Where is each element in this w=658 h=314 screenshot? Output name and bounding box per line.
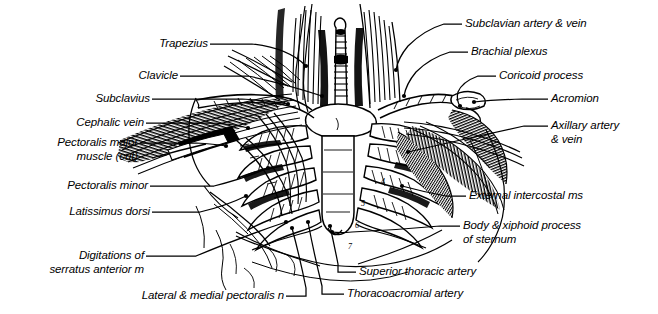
label-superior-thoracic-artery: Superior thoracic artery bbox=[359, 265, 599, 279]
label-digitations-line1: Digitations of bbox=[0, 249, 144, 263]
label-lateral-medial-pectoralis-n: Lateral & medial pectoralis n bbox=[0, 289, 284, 303]
anatomical-figure: 4 5 6 7 bbox=[0, 0, 658, 314]
label-subclavius: Subclavius bbox=[0, 92, 150, 106]
label-brachial-plexus: Brachial plexus bbox=[471, 45, 657, 59]
label-thoracoacromial-artery: Thoracoacromial artery bbox=[347, 287, 587, 301]
label-pectoralis-major-line2: muscle (cut) bbox=[0, 150, 138, 164]
label-trapezius: Trapezius bbox=[0, 37, 208, 51]
label-body-xiphoid-line2: of sternum bbox=[463, 233, 657, 247]
svg-text:6: 6 bbox=[355, 221, 359, 230]
label-pectoralis-minor: Pectoralis minor bbox=[0, 179, 148, 193]
label-pectoralis-major-line1: Pectoralis major bbox=[0, 136, 138, 150]
label-digitations-line2: serratus anterior m bbox=[0, 263, 144, 277]
label-body-xiphoid-line1: Body & xiphoid process bbox=[463, 219, 657, 233]
svg-text:4: 4 bbox=[381, 177, 385, 186]
label-external-intercostal-ms: External intercostal ms bbox=[469, 189, 657, 203]
svg-text:5: 5 bbox=[361, 199, 365, 208]
label-subclavian-artery-vein: Subclavian artery & vein bbox=[465, 17, 657, 31]
label-coricoid-process: Coricoid process bbox=[499, 69, 657, 83]
label-latissimus-dorsi: Latissimus dorsi bbox=[0, 205, 150, 219]
label-axillary-artery-line1: Axillary artery bbox=[551, 119, 657, 133]
label-clavicle: Clavicle bbox=[0, 69, 178, 83]
label-acromion: Acromion bbox=[551, 92, 657, 106]
label-axillary-artery-line2: & vein bbox=[551, 133, 657, 147]
label-cephalic-vein: Cephalic vein bbox=[0, 116, 144, 130]
